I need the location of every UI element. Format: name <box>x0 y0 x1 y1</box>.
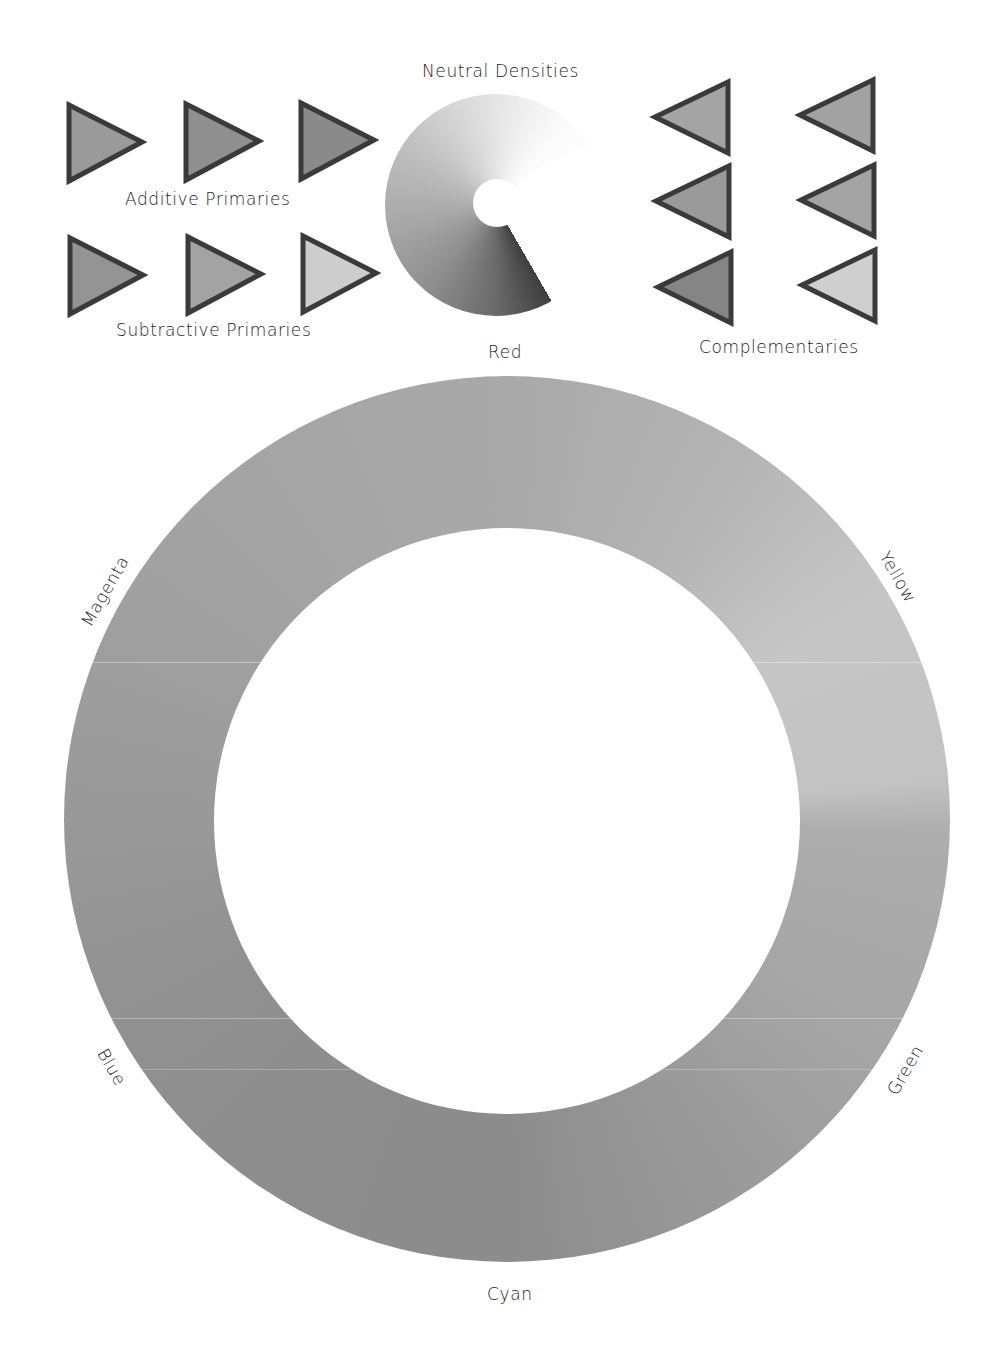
neutral-density-wheel <box>384 93 608 317</box>
complementary-triangle-1-2 <box>797 77 877 157</box>
additive-primary-triangle-3 <box>298 100 378 182</box>
neutral-densities-label: Neutral Densities <box>422 61 579 81</box>
wheel-label-red: Red <box>488 342 522 362</box>
complementaries-label: Complementaries <box>699 337 859 357</box>
complementary-triangle-2-1 <box>653 163 733 243</box>
complementary-triangle-3-2 <box>799 247 879 327</box>
additive-primary-triangle-1 <box>66 102 146 184</box>
complementary-triangle-2-2 <box>798 162 878 242</box>
complementary-triangle-1-1 <box>652 79 732 159</box>
color-wheel-ring <box>63 375 951 1263</box>
complementary-triangle-3-1 <box>655 249 735 329</box>
subtractive-primary-triangle-1 <box>67 235 147 317</box>
subtractive-primaries-label: Subtractive Primaries <box>116 320 311 340</box>
additive-primaries-label: Additive Primaries <box>125 189 290 209</box>
subtractive-primary-triangle-2 <box>185 234 265 316</box>
additive-primary-triangle-2 <box>183 101 263 183</box>
subtractive-primary-triangle-3 <box>300 233 380 315</box>
wheel-label-cyan: Cyan <box>487 1284 533 1304</box>
